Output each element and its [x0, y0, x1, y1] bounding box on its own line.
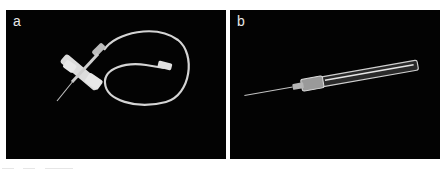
- butterfly-needle-image: [6, 10, 226, 159]
- caption-fragment: [23, 168, 35, 169]
- caption-fragment: [45, 168, 73, 169]
- figure-panel-b: b: [230, 10, 440, 159]
- figure-panel-a: a: [6, 10, 226, 159]
- iv-cannula-image: [230, 10, 440, 159]
- caption-fragment: [2, 168, 14, 169]
- figure-caption-placeholder: [2, 160, 82, 168]
